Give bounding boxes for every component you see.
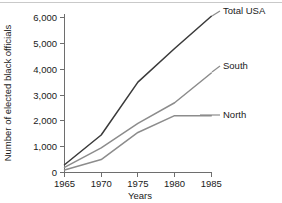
y-axis-tick-labels: 6,000 5,000 4,000 3,000 2,000 1,000 0 <box>33 12 57 178</box>
series-leader-lines <box>200 11 220 115</box>
y-tick-label-5000: 5,000 <box>33 38 57 49</box>
series-paths <box>65 16 212 170</box>
plot-axes <box>65 14 213 173</box>
chart-canvas: 6,000 5,000 4,000 3,000 2,000 1,000 0 19… <box>0 0 282 203</box>
x-axis-ticks <box>65 173 212 178</box>
y-tick-label-6000: 6,000 <box>33 12 57 23</box>
x-axis-tick-labels: 1965 1970 1975 1980 1985 <box>54 178 222 189</box>
series-label-north: North <box>223 109 246 120</box>
series-line-south <box>65 73 212 167</box>
axis-lines <box>65 14 213 173</box>
y-tick-label-1000: 1,000 <box>33 141 57 152</box>
leader-line-total-usa <box>212 11 220 16</box>
y-axis-ticks <box>60 18 65 173</box>
x-tick-label-1980: 1980 <box>164 178 185 189</box>
series-label-south: South <box>223 60 248 71</box>
y-tick-label-4000: 4,000 <box>33 64 57 75</box>
y-tick-label-3000: 3,000 <box>33 90 57 101</box>
series-label-total-usa: Total USA <box>223 5 266 16</box>
x-axis-title: Years <box>128 190 152 201</box>
y-axis-title: Number of elected black officials <box>2 24 13 161</box>
x-tick-label-1985: 1985 <box>201 178 222 189</box>
series-labels: Total USA South North <box>223 5 266 120</box>
y-tick-label-0: 0 <box>52 167 57 178</box>
x-tick-label-1975: 1975 <box>127 178 148 189</box>
x-tick-label-1970: 1970 <box>91 178 112 189</box>
line-chart: 6,000 5,000 4,000 3,000 2,000 1,000 0 19… <box>0 0 282 203</box>
y-tick-label-2000: 2,000 <box>33 115 57 126</box>
x-tick-label-1965: 1965 <box>54 178 75 189</box>
leader-line-south <box>212 66 220 72</box>
